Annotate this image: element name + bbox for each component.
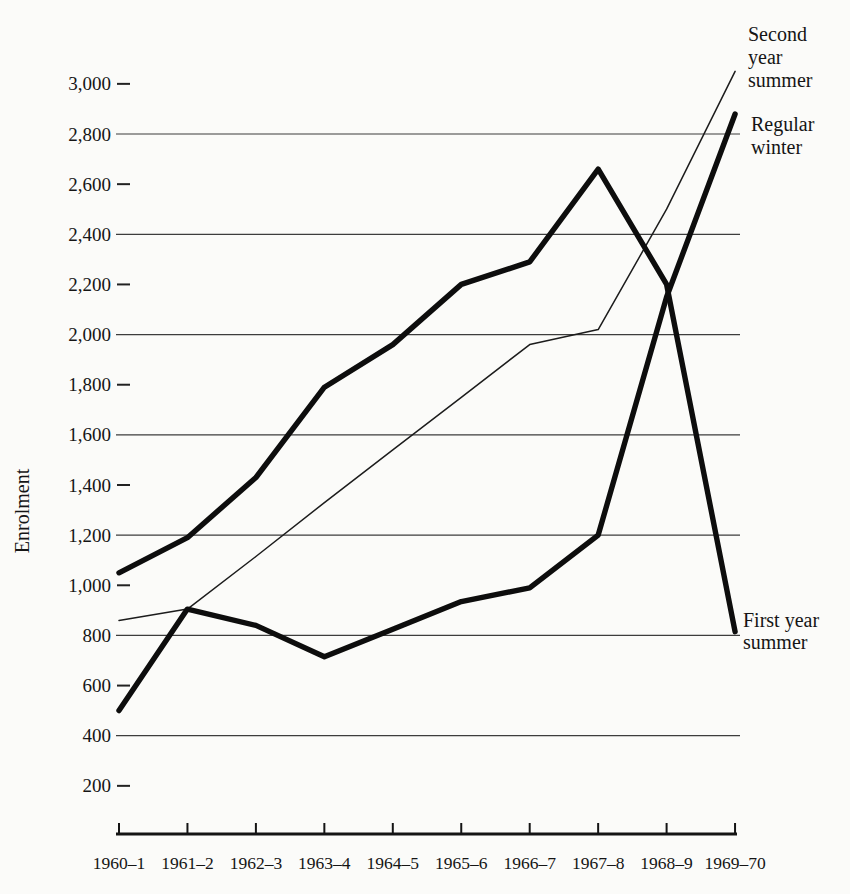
gridlines-group xyxy=(116,84,740,786)
x-tick-label-1960-1: 1960–1 xyxy=(93,853,146,873)
series-lines-group xyxy=(119,71,735,710)
series-line-second-year-summer xyxy=(119,71,735,620)
x-axis-group: 1960–11961–21962–31963–41964–51965–61966… xyxy=(93,823,766,873)
y-tick-label-1000: 1,000 xyxy=(68,575,111,596)
y-tick-label-1800: 1,800 xyxy=(68,374,111,395)
series-label-line: Second xyxy=(748,23,807,45)
enrolment-line-chart: 3,0002,8002,6002,4002,2002,0001,8001,600… xyxy=(0,0,850,894)
series-label-line: First year xyxy=(743,609,819,632)
x-tick-label-1963-4: 1963–4 xyxy=(298,853,351,873)
series-line-regular-winter xyxy=(119,114,735,711)
x-tick-label-1968-9: 1968–9 xyxy=(640,853,693,873)
y-tick-label-2600: 2,600 xyxy=(68,174,111,195)
y-axis-ticks-group: 3,0002,8002,6002,4002,2002,0001,8001,600… xyxy=(68,73,111,796)
series-label-second-year-summer: Secondyearsummer xyxy=(748,23,813,91)
y-tick-label-2200: 2,200 xyxy=(68,274,111,295)
x-tick-label-1969-70: 1969–70 xyxy=(704,853,766,873)
y-tick-label-2000: 2,000 xyxy=(68,324,111,345)
y-tick-label-1600: 1,600 xyxy=(68,424,111,445)
series-line-first-year-summer xyxy=(119,169,735,632)
series-label-line: summer xyxy=(748,69,813,91)
series-label-first-year-summer: First yearsummer xyxy=(743,609,819,653)
x-tick-label-1962-3: 1962–3 xyxy=(230,853,283,873)
y-tick-label-800: 800 xyxy=(83,625,112,646)
series-labels-group: SecondyearsummerRegularwinterFirst years… xyxy=(743,23,819,653)
x-tick-label-1965-6: 1965–6 xyxy=(435,853,488,873)
series-label-line: Regular xyxy=(751,113,815,136)
y-tick-label-1200: 1,200 xyxy=(68,525,111,546)
y-axis-title: Enrolment xyxy=(11,468,33,553)
series-label-line: year xyxy=(748,46,783,69)
x-tick-label-1961-2: 1961–2 xyxy=(161,853,214,873)
y-tick-label-200: 200 xyxy=(83,775,112,796)
series-label-line: winter xyxy=(751,136,802,158)
y-tick-label-3000: 3,000 xyxy=(68,73,111,94)
y-tick-label-2400: 2,400 xyxy=(68,224,111,245)
series-label-regular-winter: Regularwinter xyxy=(751,113,815,158)
series-label-line: summer xyxy=(743,631,808,653)
y-tick-label-600: 600 xyxy=(83,675,112,696)
x-tick-label-1964-5: 1964–5 xyxy=(367,853,420,873)
y-tick-label-400: 400 xyxy=(83,725,112,746)
x-tick-label-1966-7: 1966–7 xyxy=(503,853,556,873)
y-tick-label-2800: 2,800 xyxy=(68,124,111,145)
x-tick-label-1967-8: 1967–8 xyxy=(572,853,625,873)
scanned-book-page: 3,0002,8002,6002,4002,2002,0001,8001,600… xyxy=(0,0,850,894)
y-tick-label-1400: 1,400 xyxy=(68,475,111,496)
